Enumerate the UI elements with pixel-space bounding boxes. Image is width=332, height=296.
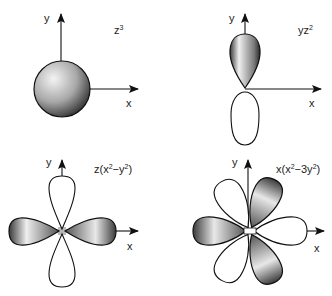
orbital-label-zx2-y2: z(x2−y2) — [94, 163, 132, 175]
y-axis-label: y — [46, 157, 52, 168]
orbital-label-xx2-3y2: x(x2−3y2) — [276, 163, 320, 175]
sphere-lobe — [34, 61, 90, 117]
right-shaded-lobe — [65, 218, 116, 245]
lower-open-lobe — [49, 234, 75, 287]
x-axis-label: x — [314, 243, 320, 254]
panel-xx2-3y2 — [193, 160, 324, 289]
upper-shaded-lobe — [230, 34, 260, 88]
y-axis-label: y — [229, 13, 235, 24]
orbital-label-z3: z3 — [114, 24, 123, 36]
lower-open-lobe — [231, 92, 259, 145]
left-shaded-lobe — [9, 218, 59, 245]
upper-open-lobe — [49, 176, 75, 229]
panel-zx2-y2 — [9, 160, 138, 287]
node-center — [244, 228, 256, 234]
orbital-label-yz2: yz2 — [298, 24, 313, 36]
y-axis-label: y — [232, 157, 238, 168]
x-axis-label: x — [127, 241, 133, 252]
x-axis-label: x — [309, 98, 315, 109]
orbital-drawing — [0, 0, 332, 296]
x-axis-label: x — [126, 98, 132, 109]
y-axis-label: y — [44, 13, 50, 24]
f-orbital-diagram: y z3 x y yz2 x y z(x2−y2) x y x(x2−3y2) … — [0, 0, 332, 296]
